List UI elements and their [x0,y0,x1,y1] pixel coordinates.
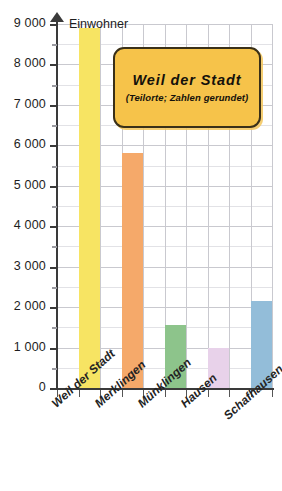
callout-box: Weil der Stadt (Teilorte; Zahlen gerunde… [113,47,261,128]
y-tick-major [50,24,57,26]
x-tick [229,390,230,397]
y-tick-major [50,267,57,269]
gridline-vertical [272,24,273,388]
y-axis-arrow-icon [50,12,64,22]
y-tick-major [50,226,57,228]
y-tick-major [50,307,57,309]
y-tick-minor [52,327,57,329]
y-tick-label: 5 000 [14,178,46,192]
bar-weil-der-stadt [79,28,100,388]
x-tick [272,390,273,397]
y-axis-line [56,17,58,388]
y-tick-label: 1 000 [14,340,46,354]
y-tick-label: 2 000 [14,299,46,313]
y-tick-major [50,145,57,147]
y-tick-minor [52,44,57,46]
y-tick-major [50,348,57,350]
y-tick-major [50,105,57,107]
y-tick-minor [52,368,57,370]
y-tick-major [50,186,57,188]
callout-title: Weil der Stadt [132,72,241,88]
y-tick-minor [52,287,57,289]
y-tick-minor [52,246,57,248]
bar-merklingen [122,153,143,388]
y-tick-major [50,388,57,390]
y-tick-label: 6 000 [14,137,46,151]
y-tick-label: 7 000 [14,97,46,111]
y-tick-label: 9 000 [14,16,46,30]
y-tick-label: 3 000 [14,259,46,273]
y-tick-minor [52,166,57,168]
y-tick-minor [52,206,57,208]
y-tick-label: 0 [39,380,46,394]
y-tick-label: 4 000 [14,218,46,232]
y-tick-major [50,64,57,66]
callout-subtitle: (Teilorte; Zahlen gerundet) [126,92,249,103]
bar-chart: Einwohner 01 0002 0003 0004 0005 0006 00… [0,0,282,491]
y-tick-minor [52,85,57,87]
y-tick-minor [52,125,57,127]
y-tick-label: 8 000 [14,56,46,70]
y-axis-title: Einwohner [69,17,128,31]
